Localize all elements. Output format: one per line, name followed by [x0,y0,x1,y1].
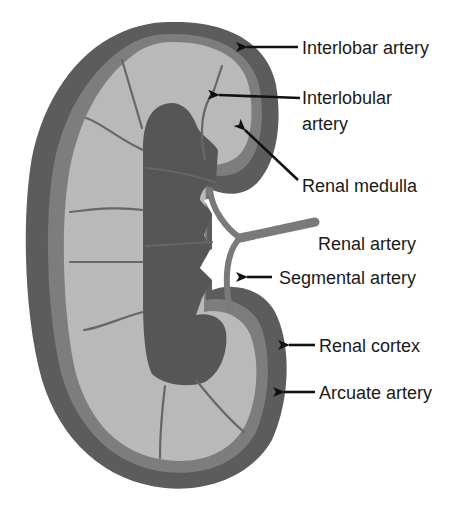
label-renal-medulla: Renal medulla [302,176,418,196]
renal-artery-vessel [240,222,315,238]
label-renal-artery: Renal artery [318,234,416,254]
label-renal-cortex: Renal cortex [319,336,420,356]
label-segmental-artery: Segmental artery [279,268,416,288]
label-interlobar-artery: Interlobar artery [302,38,429,58]
label-interlobular-artery-line2: artery [302,114,348,134]
label-arcuate-artery: Arcuate artery [319,383,432,403]
label-interlobular-artery-line1: Interlobular [302,88,392,108]
kidney-diagram: Interlobar artery Interlobular artery Re… [0,0,475,517]
